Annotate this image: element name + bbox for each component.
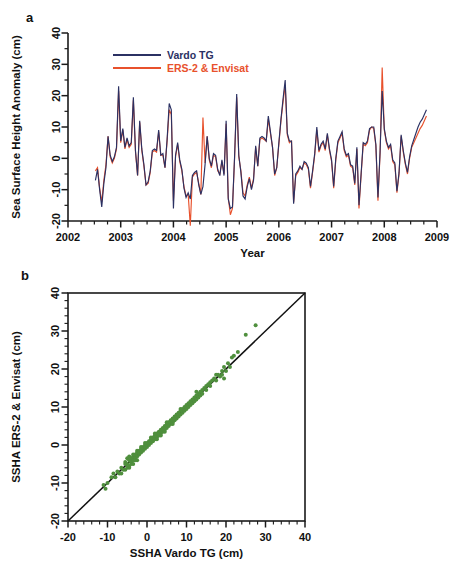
scatter-point (224, 369, 228, 373)
scatter-point (123, 462, 127, 466)
scatter-point (208, 384, 212, 388)
panel-b-y-tick-label: 30 (49, 325, 61, 337)
panel-b-x-tick-label: -10 (100, 531, 116, 543)
scatter-point (127, 466, 131, 470)
panel-b-x-tick-label: 0 (144, 531, 150, 543)
scatter-point (232, 354, 236, 358)
scatter-point (214, 378, 218, 382)
panel-a-y-tick-label: -20 (50, 213, 62, 229)
scatter-point (236, 350, 240, 354)
scatter-point (222, 377, 226, 381)
panel-a-timeseries-chart: -20-100102030402002200320042005200620072… (0, 0, 464, 262)
panel-a-y-axis-title: Sea Surface Height Anomaly (cm) (10, 35, 22, 219)
panel-a-x-tick-label: 2004 (161, 231, 186, 243)
panel-b-x-tick-label: 30 (259, 531, 271, 543)
panel-a-x-axis-title: Year (240, 247, 265, 259)
panel-a-y-tick-label: 40 (50, 27, 62, 39)
panel-b-y-tick-label: 40 (49, 287, 61, 299)
panel-b-points (102, 323, 258, 490)
scatter-point (228, 365, 232, 369)
scatter-point (179, 407, 183, 411)
panel-a-x-tick-label: 2005 (214, 231, 238, 243)
legend-label-0: Vardo TG (167, 49, 214, 61)
panel-a-y-tick-label: 30 (50, 58, 62, 70)
scatter-point (149, 435, 153, 439)
scatter-point (204, 388, 208, 392)
scatter-point (131, 462, 135, 466)
legend-label-1: ERS-2 & Envisat (167, 62, 249, 74)
scatter-point (165, 420, 169, 424)
panel-b-y-tick-label: -20 (49, 513, 61, 529)
scatter-point (226, 361, 230, 365)
scatter-point (109, 475, 113, 479)
panel-b-scatter-chart: -20-10010203040-20-10010203040SSHA ERS-2… (0, 266, 464, 566)
panel-a-y-tick-label: 0 (50, 155, 62, 161)
panel-b-y-tick-label: -10 (49, 475, 61, 491)
scatter-point (163, 430, 167, 434)
scatter-point (111, 472, 115, 476)
panel-b-x-tick-label: -20 (60, 531, 76, 543)
scatter-point (139, 445, 143, 449)
scatter-point (200, 392, 204, 396)
panel-b-y-tick-label: 10 (49, 401, 61, 413)
panel-b-x-axis-title: SSHA Vardo TG (cm) (130, 547, 243, 559)
panel-b-y-axis-title: SSHA ERS-2 & Envisat (cm) (10, 331, 22, 483)
scatter-point (143, 441, 147, 445)
panel-b-y-tick-label: 0 (49, 442, 61, 448)
panel-a-series-vardo-tg (95, 80, 426, 208)
scatter-point (102, 483, 106, 487)
panel-b-y-tick-label: 20 (49, 363, 61, 375)
panel-a-y-tick-label: -10 (50, 182, 62, 198)
panel-a-y-tick-label: 20 (50, 90, 62, 102)
scatter-point (106, 481, 110, 485)
scatter-point (194, 390, 198, 394)
panel-a-x-tick-label: 2007 (319, 231, 343, 243)
scatter-point (222, 365, 226, 369)
scatter-point (254, 323, 258, 327)
panel-b-x-tick-label: 40 (299, 531, 311, 543)
panel-a-x-tick-label: 2009 (425, 231, 449, 243)
panel-a-x-tick-label: 2002 (56, 231, 80, 243)
scatter-point (171, 422, 175, 426)
scatter-point (113, 475, 117, 479)
panel-a-y-tick-label: 10 (50, 121, 62, 133)
panel-a-x-tick-label: 2006 (267, 231, 291, 243)
panel-b-x-tick-label: 10 (180, 531, 192, 543)
panel-a-x-tick-label: 2003 (108, 231, 132, 243)
figure-container: a b -20-10010203040200220032004200520062… (0, 0, 464, 571)
panel-b-x-tick-label: 20 (220, 531, 232, 543)
panel-a-legend: Vardo TGERS-2 & Envisat (113, 49, 249, 74)
scatter-point (153, 432, 157, 436)
scatter-point (244, 333, 248, 337)
scatter-point (220, 373, 224, 377)
scatter-point (135, 458, 139, 462)
scatter-point (214, 373, 218, 377)
scatter-point (159, 434, 163, 438)
scatter-point (119, 472, 123, 476)
scatter-point (155, 437, 159, 441)
scatter-point (220, 369, 224, 373)
panel-a-series-ers2-envisat (95, 67, 426, 225)
scatter-point (104, 487, 108, 491)
panel-a-x-tick-label: 2008 (372, 231, 396, 243)
